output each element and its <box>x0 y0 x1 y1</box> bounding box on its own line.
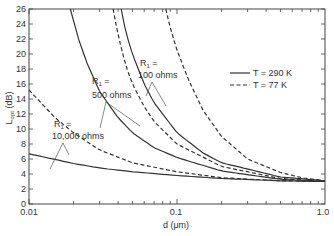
x-axis-label: d (μm) <box>163 220 189 230</box>
y-tick-label: 26 <box>16 4 26 14</box>
svg-text:R1 =: R1 = <box>140 58 158 69</box>
y-tick-label: 12 <box>16 109 26 119</box>
curve-4 <box>121 9 325 181</box>
y-tick-label: 8 <box>21 139 26 149</box>
legend: T = 290 K T = 77 K <box>230 68 292 90</box>
chart: 02468101214161820222426 Lopt (dB) 0.01 0… <box>0 0 334 236</box>
legend-solid-label: T = 290 K <box>253 68 292 78</box>
y-tick-label: 10 <box>16 124 26 134</box>
annotation-r1-500: R1 = 500 ohms <box>92 76 140 128</box>
svg-text:R1 =: R1 = <box>54 119 72 130</box>
x-tick-label-0.01: 0.01 <box>20 207 38 217</box>
svg-text:500 ohms: 500 ohms <box>92 90 132 100</box>
legend-dashed-label: T = 77 K <box>253 80 287 90</box>
x-tick-label-1.0: 1.0 <box>317 207 330 217</box>
y-tick-label: 20 <box>16 49 26 59</box>
y-tick-label: 4 <box>21 169 26 179</box>
y-tick-label: 14 <box>16 94 26 104</box>
y-tick-label: 18 <box>16 64 26 74</box>
x-tick-label-0.1: 0.1 <box>170 207 183 217</box>
curve-5 <box>166 9 325 181</box>
y-tick-label: 6 <box>21 154 26 164</box>
svg-text:100 ohms: 100 ohms <box>138 70 178 80</box>
plot-frame <box>29 9 325 204</box>
y-tick-label: 22 <box>16 34 26 44</box>
y-tick-label: 24 <box>16 19 26 29</box>
plot-curves <box>29 9 325 182</box>
svg-text:10,000 ohms: 10,000 ohms <box>52 131 105 141</box>
annotation-r1-10000: R1 = 10,000 ohms <box>50 119 105 169</box>
svg-text:R1 =: R1 = <box>92 76 110 87</box>
curve-3 <box>113 9 325 182</box>
y-axis-label: Lopt (dB) <box>4 92 15 125</box>
y-tick-label: 2 <box>21 184 26 194</box>
y-tick-label: 16 <box>16 79 26 89</box>
